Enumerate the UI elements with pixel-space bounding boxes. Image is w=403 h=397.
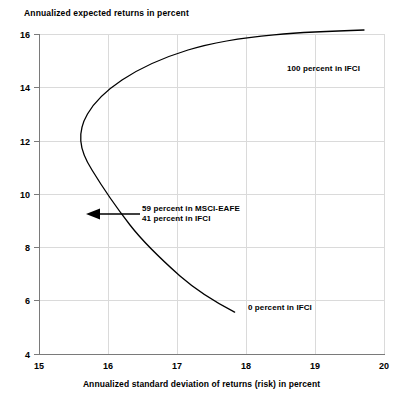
- x-tick-label-16: 16: [93, 361, 123, 371]
- y-tick-label-16: 16: [0, 30, 30, 40]
- y-tick-label-8: 8: [0, 243, 30, 253]
- x-tick-label-15: 15: [24, 361, 54, 371]
- y-tick-label-14: 14: [0, 83, 30, 93]
- x-tick-label-19: 19: [300, 361, 330, 371]
- x-axis-title: Annualized standard deviation of returns…: [0, 379, 403, 389]
- y-tick-label-10: 10: [0, 190, 30, 200]
- annotation-min-variance: 59 percent in MSCI-EAFE 41 percent in IF…: [142, 204, 240, 224]
- annotation-0-percent-ifci: 0 percent in IFCI: [248, 303, 312, 313]
- x-tick-label-20: 20: [369, 361, 399, 371]
- y-tick-label-12: 12: [0, 137, 30, 147]
- plot-area: [0, 0, 403, 397]
- x-tick-label-18: 18: [231, 361, 261, 371]
- annotation-min-variance-line2: 41 percent in IFCI: [142, 214, 240, 224]
- efficient-frontier-chart: Annualized expected returns in percent: [0, 0, 403, 397]
- x-tick-label-17: 17: [162, 361, 192, 371]
- y-axis-ticks: [34, 35, 39, 355]
- annotation-min-variance-line1: 59 percent in MSCI-EAFE: [142, 204, 240, 214]
- annotation-100-percent-ifci: 100 percent in IFCI: [287, 64, 360, 74]
- min-variance-arrow: [86, 209, 140, 220]
- y-tick-label-6: 6: [0, 296, 30, 306]
- y-tick-label-4: 4: [0, 350, 30, 360]
